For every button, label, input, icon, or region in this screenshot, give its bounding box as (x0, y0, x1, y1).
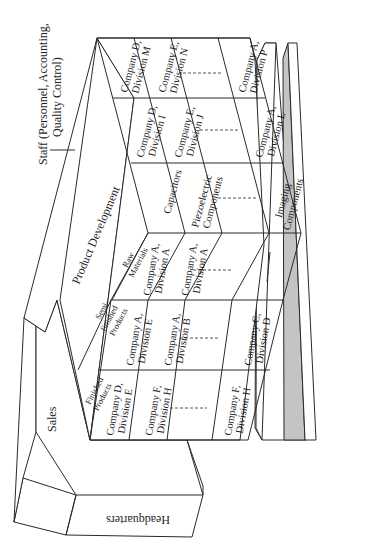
headquarters-box (14, 478, 76, 535)
org-matrix-diagram: Staff (Personnel, Accounting, Quality Co… (0, 0, 372, 547)
sales-label: Sales (45, 406, 59, 432)
headquarters-label: Headquarters (106, 513, 170, 527)
staff-label: Staff (Personnel, Accounting, Quality Co… (36, 20, 64, 165)
